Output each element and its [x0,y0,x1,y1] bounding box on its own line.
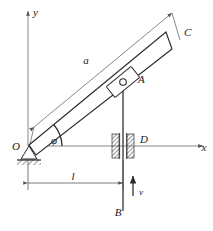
point-label-C: C [184,26,192,38]
guide-right-hatch [127,134,134,158]
x-axis-label: x [201,141,207,153]
point-label-B: B [115,206,122,218]
mechanics-diagram: y x O C A D B a l φ v [0,0,213,231]
point-label-A: A [137,73,145,85]
velocity-label-v: v [139,187,143,197]
dimension-l-group [28,160,123,190]
origin-label-O: O [12,140,20,152]
dimension-label-l: l [71,170,74,182]
dimension-a-extension-end [172,13,180,40]
guide-left-hatch [112,134,119,158]
dimension-label-a: a [83,54,89,66]
dimension-a-line [34,13,172,127]
angle-label-phi: φ [51,134,57,146]
ground-hatching [17,160,41,165]
point-label-D: D [139,133,148,145]
y-axis-label: y [32,6,38,18]
fixed-guide-left [112,133,120,159]
diagram-canvas: y x O C A D B a l φ v [0,0,213,231]
fixed-guide-right [127,133,134,159]
pin-at-A [120,79,127,86]
dimension-a-group [30,13,180,144]
